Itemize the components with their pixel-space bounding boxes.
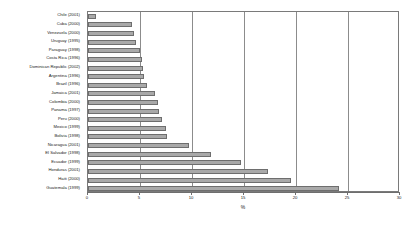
x-tick-label: 20 xyxy=(293,196,298,200)
bar-row xyxy=(88,29,398,38)
bar-row xyxy=(88,141,398,150)
bar-row xyxy=(88,167,398,176)
y-axis-label: Dominican Republic (2002) xyxy=(29,65,80,69)
bar xyxy=(88,100,158,105)
bar xyxy=(88,48,140,53)
bar xyxy=(88,91,155,96)
bar xyxy=(88,134,167,139)
x-axis: 051015202530 xyxy=(87,192,399,193)
y-axis-label: Argentina (1996) xyxy=(49,74,80,78)
bar-row xyxy=(88,55,398,64)
bar xyxy=(88,22,132,27)
bar-row xyxy=(88,176,398,185)
y-axis-category-labels: Chile (2001)Cuba (2000)Venezuela (2000)U… xyxy=(0,11,84,192)
bar xyxy=(88,109,159,114)
y-axis-label: Peru (2000) xyxy=(58,117,80,121)
bar-row xyxy=(88,12,398,21)
plot-area xyxy=(87,11,399,192)
bar-row xyxy=(88,98,398,107)
y-axis-label: Venezuela (2000) xyxy=(47,30,80,34)
bar xyxy=(88,143,189,148)
bar-row xyxy=(88,81,398,90)
y-axis-label: Honduras (2001) xyxy=(49,168,80,172)
bar-row xyxy=(88,90,398,99)
y-axis-label: Mexico (1999) xyxy=(53,125,80,129)
y-axis-label: Haiti (2000) xyxy=(58,177,80,181)
bar xyxy=(88,152,211,157)
y-axis-label: Colombia (2000) xyxy=(49,99,80,103)
bar xyxy=(88,117,162,122)
bar-row xyxy=(88,115,398,124)
bar-row xyxy=(88,107,398,116)
y-axis-label: El Salvador (1998) xyxy=(45,151,80,155)
y-axis-label: Chile (2001) xyxy=(57,13,80,17)
bar xyxy=(88,160,241,165)
bar xyxy=(88,40,136,45)
y-axis-label: Ecuador (1999) xyxy=(51,160,80,164)
x-axis-title: % xyxy=(87,205,399,210)
bar-rows xyxy=(88,12,398,191)
bar xyxy=(88,14,96,19)
x-tick-label: 30 xyxy=(397,196,402,200)
bar xyxy=(88,31,134,36)
x-tick-label: 10 xyxy=(189,196,194,200)
bar xyxy=(88,74,144,79)
bar-row xyxy=(88,46,398,55)
bar-row xyxy=(88,72,398,81)
bar xyxy=(88,178,291,183)
bar xyxy=(88,126,166,131)
y-axis-label: Brazil (1996) xyxy=(56,82,80,86)
x-tick-label: 5 xyxy=(138,196,140,200)
y-axis-label: Guatemala (1999) xyxy=(46,186,80,190)
y-axis-label: Uruguay (1995) xyxy=(51,39,80,43)
y-axis-label: Cuba (2000) xyxy=(57,22,80,26)
y-axis-label: Bolivia (1998) xyxy=(54,134,80,138)
y-axis-label: Nicaragua (2001) xyxy=(48,142,80,146)
bar xyxy=(88,57,142,62)
bar-chart: Chile (2001)Cuba (2000)Venezuela (2000)U… xyxy=(0,0,412,226)
bar-row xyxy=(88,124,398,133)
bar-row xyxy=(88,133,398,142)
bar xyxy=(88,83,147,88)
bar xyxy=(88,66,143,71)
bar-row xyxy=(88,159,398,168)
y-axis-label: Costa Rica (1996) xyxy=(46,56,80,60)
y-axis-label: Jamaica (2001) xyxy=(51,91,80,95)
y-axis-label: Paraguay (1998) xyxy=(49,48,80,52)
x-tick-label: 0 xyxy=(86,196,88,200)
bar-row xyxy=(88,21,398,30)
bar xyxy=(88,186,339,191)
bar-row xyxy=(88,38,398,47)
x-tick-label: 25 xyxy=(345,196,350,200)
bar-row xyxy=(88,64,398,73)
bar-row xyxy=(88,150,398,159)
bar xyxy=(88,169,268,174)
x-tick-label: 15 xyxy=(241,196,246,200)
y-axis-label: Panama (1997) xyxy=(51,108,80,112)
